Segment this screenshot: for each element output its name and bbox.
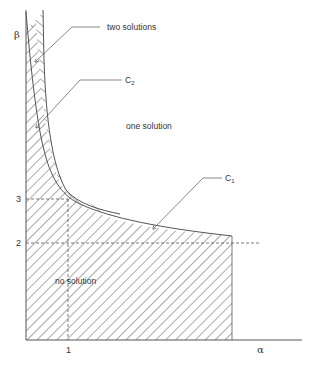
- y-tick-2: 2: [16, 238, 21, 248]
- label-no-solution: no solution: [55, 276, 96, 286]
- y-axis-label: β: [14, 29, 20, 40]
- label-c1: C1: [225, 173, 235, 184]
- label-c2: C2: [125, 75, 135, 86]
- label-one-solution: one solution: [126, 121, 172, 131]
- solution-region-diagram: β α 3 2 1 two solutions one solution no …: [0, 0, 320, 365]
- y-tick-3: 3: [16, 194, 21, 204]
- label-two-solutions: two solutions: [107, 22, 156, 32]
- x-tick-1: 1: [66, 345, 71, 355]
- leader-c1-diag: [153, 178, 203, 229]
- x-axis-label: α: [257, 344, 264, 355]
